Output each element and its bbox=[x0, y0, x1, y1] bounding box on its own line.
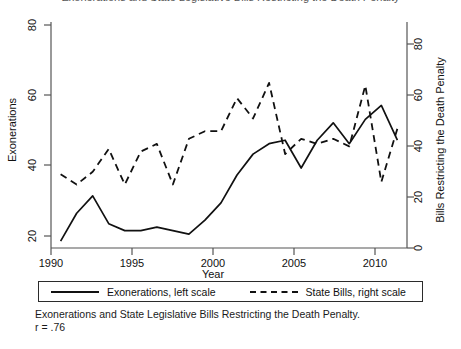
x-axis-title: Year bbox=[202, 268, 225, 280]
left-tick-60: 60 bbox=[26, 89, 38, 101]
left-axis-tick-labels: 80 60 40 20 bbox=[26, 19, 38, 242]
right-axis-title: Bills Restricting the Death Penalty bbox=[434, 57, 446, 223]
legend-entry-state-bills: State Bills, right scale bbox=[250, 286, 406, 298]
caption-line-2: r = .76 bbox=[35, 321, 455, 334]
x-axis-ticks bbox=[51, 248, 375, 255]
x-tick-1990: 1990 bbox=[39, 257, 63, 269]
right-tick-40: 40 bbox=[412, 140, 424, 152]
right-tick-60: 60 bbox=[412, 89, 424, 101]
x-tick-2005: 2005 bbox=[282, 257, 306, 269]
figure-container: Exonerations and State Legislative Bills… bbox=[0, 0, 461, 349]
legend-label-exonerations: Exonerations, left scale bbox=[107, 286, 216, 298]
left-axis-ticks bbox=[44, 25, 51, 236]
chart-legend: Exonerations, left scale State Bills, ri… bbox=[38, 281, 423, 302]
legend-entry-exonerations: Exonerations, left scale bbox=[51, 286, 216, 298]
dashed-line-key bbox=[250, 287, 298, 297]
x-tick-1995: 1995 bbox=[120, 257, 144, 269]
right-tick-20: 20 bbox=[412, 191, 424, 203]
caption-line-1: Exonerations and State Legislative Bills… bbox=[35, 308, 455, 321]
left-tick-40: 40 bbox=[26, 159, 38, 171]
left-tick-20: 20 bbox=[26, 230, 38, 242]
figure-caption: Exonerations and State Legislative Bills… bbox=[35, 308, 455, 333]
series-line-state-bills bbox=[61, 83, 398, 185]
chart-plot-area: 80 60 40 20 80 60 40 20 0 bbox=[0, 0, 461, 280]
x-tick-2010: 2010 bbox=[363, 257, 387, 269]
left-tick-80: 80 bbox=[26, 19, 38, 31]
left-axis-title: Exonerations bbox=[6, 97, 18, 162]
right-tick-0: 0 bbox=[412, 245, 424, 251]
solid-line-key bbox=[51, 287, 99, 297]
legend-label-state-bills: State Bills, right scale bbox=[306, 286, 406, 298]
series-line-exonerations bbox=[61, 105, 398, 241]
right-tick-80: 80 bbox=[412, 38, 424, 50]
right-axis-tick-labels: 80 60 40 20 0 bbox=[412, 38, 424, 251]
